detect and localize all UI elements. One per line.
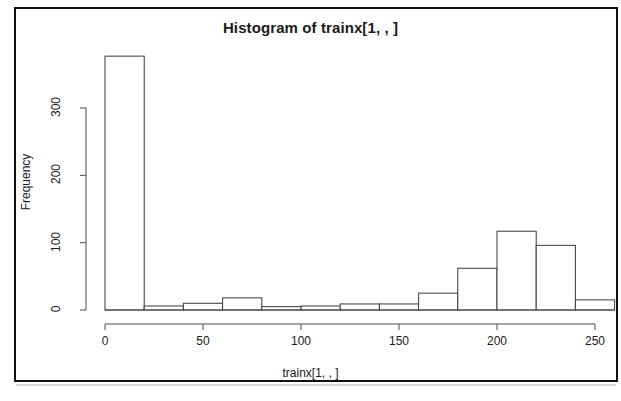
histogram-bar (262, 307, 301, 310)
y-axis-tick-label: 200 (49, 154, 63, 194)
x-axis-tick-label: 250 (570, 334, 620, 348)
histogram-bar (105, 56, 144, 310)
histogram-bar (223, 298, 262, 310)
histogram-bar (575, 300, 614, 310)
x-axis-tick-label: 0 (80, 334, 130, 348)
y-axis-tick-label: 300 (49, 87, 63, 127)
screenshot-canvas: Histogram of trainx[1, , ] 0100200300 05… (0, 0, 621, 401)
y-axis-tick-label: 100 (49, 222, 63, 262)
histogram-bar (419, 293, 458, 310)
histogram-bar (379, 304, 418, 310)
x-axis-title: trainx[1, , ] (0, 366, 621, 380)
x-axis-tick-label: 50 (178, 334, 228, 348)
histogram-bar (301, 306, 340, 310)
x-axis-tick-label: 200 (472, 334, 522, 348)
histogram-bar (183, 303, 222, 310)
histogram-plot: Histogram of trainx[1, , ] 0100200300 05… (0, 0, 621, 401)
histogram-bar (458, 268, 497, 310)
histogram-bar (340, 304, 379, 310)
histogram-bars (105, 56, 615, 310)
histogram-bar (144, 306, 183, 310)
histogram-bar (497, 231, 536, 310)
x-axis-tick-label: 150 (374, 334, 424, 348)
x-axis-tick-label: 100 (276, 334, 326, 348)
y-axis-tick-label: 0 (49, 289, 63, 329)
y-axis-title: Frequency (19, 112, 33, 252)
histogram-bar (536, 245, 575, 310)
